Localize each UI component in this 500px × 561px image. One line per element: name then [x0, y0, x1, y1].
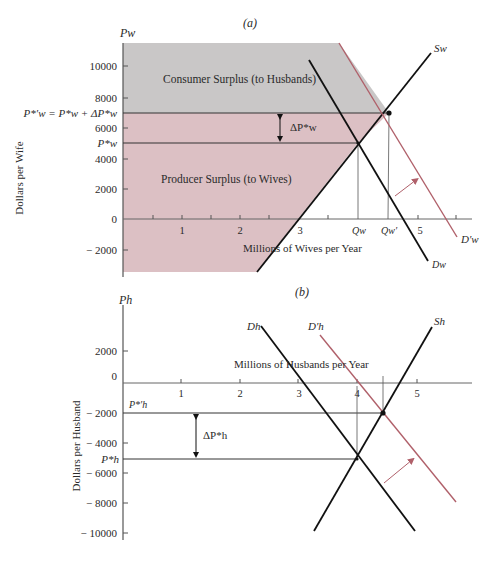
demand-label-dw: Dw	[431, 259, 446, 270]
svg-text:0: 0	[112, 370, 118, 382]
svg-text:− 8000: − 8000	[86, 497, 117, 509]
equilibrium-point-new-a	[386, 110, 391, 115]
price-label-new-b: P*′h	[128, 399, 147, 410]
supply-label-sh: Sh	[434, 315, 446, 327]
x-tick-labels-b: 1 2 3 4 5	[178, 388, 419, 399]
consumer-surplus-label: Consumer Surplus (to Husbands)	[163, 73, 316, 86]
x-axis-label-b: Millions of Husbands per Year	[234, 358, 369, 370]
svg-text:5: 5	[414, 388, 419, 399]
demand-shifted-label-dw: D′w	[460, 233, 479, 245]
equilibrium-point-old-a	[356, 141, 359, 144]
delta-label-b: ΔP*h	[203, 429, 228, 441]
y-axis-label-a: Dollars per Wife	[13, 141, 25, 214]
price-label-old-a: P*w	[96, 137, 117, 149]
shift-arrow-b	[384, 460, 412, 483]
panel-b: (b) Ph Dollars per Husband 2000 0 − 2000…	[70, 285, 472, 540]
y-tick-labels-b: 2000 0 − 2000 − 4000 − 6000 − 8000 − 100…	[81, 345, 118, 539]
producer-surplus-label: Producer Surplus (to Wives)	[161, 173, 292, 186]
q-new-label-a: Qw′	[381, 225, 398, 236]
equilibrium-point-old-b	[355, 457, 358, 460]
svg-text:− 2000: − 2000	[86, 244, 117, 256]
svg-text:− 10000: − 10000	[81, 527, 118, 539]
svg-text:− 6000: − 6000	[86, 467, 117, 479]
price-label-old-b: P*h	[100, 453, 119, 465]
svg-text:8000: 8000	[95, 92, 118, 104]
svg-text:2: 2	[237, 388, 242, 399]
q-label-a: Qw	[352, 225, 366, 236]
equilibrium-point-new-b	[380, 410, 385, 415]
svg-text:− 2000: − 2000	[86, 407, 117, 419]
svg-text:5: 5	[417, 225, 422, 236]
shift-arrow-a	[395, 180, 416, 196]
demand-label-dh: Dh	[246, 320, 261, 332]
panel-b-label: (b)	[295, 285, 309, 299]
demand-shifted-label-dh: D′h	[307, 320, 324, 332]
y-tick-labels-a: 10000 8000 6000 4000 2000 0 − 2000	[86, 60, 117, 256]
panel-a-label: (a)	[243, 16, 257, 30]
y-axis-title-a: Pw	[119, 26, 135, 40]
y-axis-title-b: Ph	[118, 293, 132, 307]
svg-text:4: 4	[354, 388, 360, 399]
svg-text:0: 0	[112, 213, 118, 225]
svg-text:4000: 4000	[95, 153, 118, 165]
x-axis-label-a: Millions of Wives per Year	[243, 242, 362, 254]
price-label-new-a: P*′w = P*w + ΔP*w	[23, 107, 118, 119]
panel-a: (a) Pw Dollars per Wife 10000 8000 6000 …	[13, 16, 479, 277]
q-new-line-a	[388, 113, 389, 219]
two-panel-chart: (a) Pw Dollars per Wife 10000 8000 6000 …	[0, 0, 500, 561]
y-axis-label-b: Dollars per Husband	[70, 400, 82, 492]
supply-label-sw: Sw	[434, 42, 448, 54]
svg-text:2000: 2000	[95, 183, 118, 195]
svg-text:10000: 10000	[90, 60, 118, 72]
svg-text:− 4000: − 4000	[86, 437, 117, 449]
svg-text:2000: 2000	[95, 345, 118, 357]
svg-text:3: 3	[296, 388, 301, 399]
svg-text:1: 1	[178, 388, 183, 399]
svg-text:1: 1	[179, 225, 184, 236]
svg-text:6000: 6000	[95, 122, 118, 134]
delta-label-a: ΔP*w	[290, 121, 317, 133]
svg-text:3: 3	[297, 225, 302, 236]
svg-text:2: 2	[237, 225, 242, 236]
